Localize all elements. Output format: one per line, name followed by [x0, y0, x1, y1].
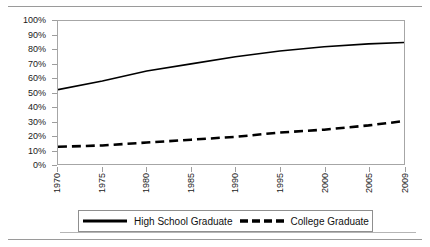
legend-key-dashed-line: [239, 216, 285, 226]
legend-item-high-school-graduate: High School Graduate: [82, 216, 232, 227]
x-axis-tick-mark: [235, 167, 236, 172]
y-axis-tick-label: 70%: [28, 59, 46, 68]
y-axis-tick-mark: [52, 165, 57, 166]
x-axis-tick-label: 2009: [400, 173, 410, 193]
x-axis-tick-mark: [191, 167, 192, 172]
y-axis-tick-label: 40%: [28, 103, 46, 112]
bottom-divider-secondary: [60, 232, 416, 233]
plot-svg: [58, 21, 404, 164]
legend-label-college-graduate: College Graduate: [291, 216, 369, 227]
x-axis-tick-label: 1985: [186, 173, 196, 193]
series-high-school-graduate: [58, 42, 404, 89]
series-college-graduate: [58, 121, 404, 147]
x-axis-tick-label: 2000: [320, 173, 330, 193]
x-axis-tick-mark: [369, 167, 370, 172]
y-axis-tick-label: 60%: [28, 74, 46, 83]
x-axis-tick-label: 1980: [141, 173, 151, 193]
plot-area: [57, 20, 405, 165]
y-axis-tick-label: 50%: [28, 88, 46, 97]
y-axis-tick-label: 90%: [28, 30, 46, 39]
legend-key-solid-line: [82, 216, 128, 226]
x-axis-tick-label: 2005: [364, 173, 374, 193]
bottom-divider: [8, 239, 422, 240]
x-axis-tick-label: 1990: [230, 173, 240, 193]
legend-label-high-school-graduate: High School Graduate: [134, 216, 232, 227]
x-axis-tick-label: 1970: [52, 173, 62, 193]
chart-legend: High School Graduate College Graduate: [78, 210, 373, 232]
y-axis-tick-label: 0%: [33, 161, 46, 170]
x-axis-tick-mark: [325, 167, 326, 172]
y-axis-tick-label: 20%: [28, 132, 46, 141]
x-axis-tick-mark: [146, 167, 147, 172]
x-axis-tick-mark: [102, 167, 103, 172]
x-axis-tick-mark: [57, 167, 58, 172]
y-axis-tick-label: 30%: [28, 117, 46, 126]
x-axis-tick-mark: [280, 167, 281, 172]
line-chart: 100%90%80%70%60%50%40%30%20%10%0% 197019…: [0, 12, 430, 234]
y-axis-tick-label: 10%: [28, 146, 46, 155]
y-axis-labels: 100%90%80%70%60%50%40%30%20%10%0%: [0, 20, 52, 165]
legend-item-college-graduate: College Graduate: [239, 216, 369, 227]
x-axis-tick-label: 1975: [97, 173, 107, 193]
x-axis-tick-mark: [405, 167, 406, 172]
top-divider: [8, 6, 422, 7]
y-axis-tick-label: 100%: [23, 16, 46, 25]
x-axis-tick-label: 1995: [275, 173, 285, 193]
x-axis-labels: 197019751980198519901995200020052009: [57, 167, 405, 215]
y-axis-tick-label: 80%: [28, 45, 46, 54]
